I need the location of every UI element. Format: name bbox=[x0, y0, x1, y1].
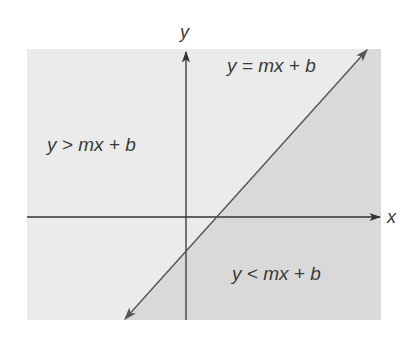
x-axis-label: x bbox=[386, 207, 397, 227]
y-axis-label: y bbox=[178, 22, 190, 42]
inequality-diagram: y x y = mx + b y > mx + b y < mx + b bbox=[0, 0, 413, 343]
above-region-label: y > mx + b bbox=[45, 134, 136, 155]
line-equation-label: y = mx + b bbox=[225, 55, 316, 76]
below-region-label: y < mx + b bbox=[230, 263, 321, 284]
